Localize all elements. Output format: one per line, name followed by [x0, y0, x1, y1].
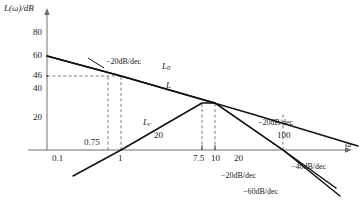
annotation-slope-lower: −20dB/dec	[221, 172, 256, 180]
x-label-0p75-text: 0.75	[84, 137, 100, 147]
x-tick-1: 1	[118, 154, 123, 163]
x-tick-marks	[202, 145, 215, 150]
x-tick-7p5: 7.5	[193, 154, 204, 163]
axis-lines	[28, 8, 352, 153]
x-tick-20: 20	[234, 154, 243, 163]
x-tick-10: 10	[211, 154, 220, 163]
y-tick-20: 20	[22, 113, 42, 122]
x-label-0p75: 0.75	[84, 138, 100, 147]
annotation-slope-top: −20dB/dec	[106, 58, 141, 66]
y-tick-80: 80	[22, 28, 42, 37]
x-tick-0p1: 0.1	[52, 154, 63, 163]
curve-label-Lc: Lc	[143, 118, 151, 128]
curve-label-L0: L0	[162, 62, 170, 72]
y-tick-40: 40	[22, 84, 42, 93]
leader-slope-top	[88, 58, 104, 68]
y-axis-title-text: L(ω)/dB	[4, 3, 34, 13]
x-tick-100: 100	[277, 131, 291, 140]
annotation-slope-mid-right: −20dB/dec	[258, 119, 293, 127]
annotation-slope-60: −60dB/dec	[243, 188, 278, 196]
curve-Lc	[73, 103, 336, 188]
curve-Lc-main	[73, 103, 336, 188]
curve-L0	[47, 56, 358, 146]
curve-L	[47, 56, 340, 196]
y-axis-arrow	[44, 8, 49, 15]
y-tick-46: 46	[22, 71, 42, 80]
curve-label-L0-sub: 0	[167, 64, 170, 71]
curve-label-L: L	[166, 81, 171, 90]
plot-canvas	[0, 0, 362, 204]
y-tick-60: 60	[22, 51, 42, 60]
bode-plot-figure: L(ω)/dB ω 80 60 46 40 20 0.1 1 7.5 10 20…	[0, 0, 362, 204]
y-axis-title: L(ω)/dB	[4, 4, 34, 13]
annotation-slope-40: −40dB/dec	[291, 163, 326, 171]
curve-L-main	[47, 56, 340, 196]
annotation-slope-plus20: 20	[154, 131, 163, 140]
annotation-leaders	[88, 58, 104, 68]
x-axis-title: ω	[345, 140, 351, 149]
curve-label-Lc-sub: c	[148, 120, 151, 127]
curve-L0-main	[47, 56, 358, 146]
